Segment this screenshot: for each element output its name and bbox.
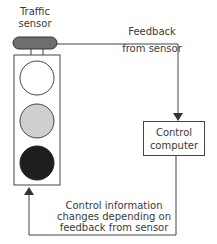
control-info-label: Control information changes depending on…: [55, 200, 173, 233]
light-bottom: [20, 146, 54, 180]
control-info-line1: Control information: [55, 200, 173, 211]
control-computer-line2: computer: [150, 139, 198, 152]
light-middle: [20, 104, 54, 138]
feedback-label-line1: Feedback: [112, 26, 192, 38]
sensor-label-line2: sensor: [10, 18, 60, 30]
sensor-label: Traffic sensor: [10, 6, 60, 30]
arrowhead-down-icon: [173, 113, 183, 121]
control-info-line2: changes depending on: [55, 211, 173, 222]
control-info-line3: feedback from sensor: [55, 222, 173, 233]
feedback-label-line2: from sensor: [112, 43, 192, 55]
light-top: [20, 61, 54, 95]
control-computer-line1: Control: [150, 126, 198, 139]
traffic-sensor: [13, 37, 57, 49]
arrowhead-up-icon: [24, 187, 34, 195]
sensor-label-line1: Traffic: [10, 6, 60, 18]
control-computer-box: Control computer: [143, 121, 205, 156]
feedback-label: Feedback from sensor: [112, 26, 192, 55]
